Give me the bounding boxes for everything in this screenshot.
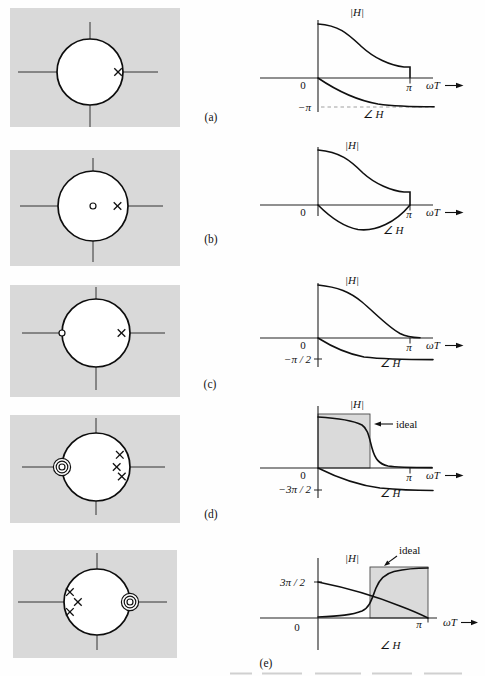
phase-label: ∠ H xyxy=(383,224,405,236)
pi-label: π xyxy=(406,208,412,220)
phase-label: ∠ H xyxy=(380,487,402,499)
magnitude-label: |H| xyxy=(345,275,359,286)
panel-label: (e) xyxy=(260,657,273,670)
cropped-caption-marks xyxy=(230,673,462,675)
magnitude-label: |H| xyxy=(350,6,364,18)
omega-t-label: ωT xyxy=(443,616,458,628)
phase-level-label: 3π / 2 xyxy=(279,576,306,588)
origin-label: 0 xyxy=(300,469,306,481)
pi-label: π xyxy=(406,471,412,483)
ideal-label: ideal xyxy=(399,544,420,556)
panel-e-row: (e) ideal |H| 3π / 2 0 π ωT ∠ H xyxy=(0,540,485,676)
phase-level-label: −3π / 2 xyxy=(279,483,312,495)
panel-label: (b) xyxy=(204,233,218,246)
magnitude-label: |H| xyxy=(350,400,364,410)
ideal-response-region xyxy=(318,414,370,468)
phase-curve xyxy=(318,78,434,107)
panel-b-row: (b) |H| 0 π ωT ∠ H xyxy=(0,140,485,275)
phase-level-label: −π xyxy=(298,101,311,113)
origin-label: 0 xyxy=(300,79,306,91)
phase-level-label: −π / 2 xyxy=(284,353,311,365)
panel-a-row: (a) |H| 0 π ωT −π ∠ H xyxy=(0,0,485,140)
magnitude-curve xyxy=(318,285,420,338)
textbook-figure-page: (a) |H| 0 π ωT −π ∠ H (b) |H| 0 π ωT ∠ H xyxy=(0,0,485,676)
panel-d-row: (d) ideal |H| 0 π ωT −3π / 2 ∠ H xyxy=(0,400,485,540)
omega-t-label: ωT xyxy=(426,79,441,91)
zero-marker xyxy=(59,330,65,336)
pi-label: π xyxy=(406,341,412,353)
magnitude-curve xyxy=(318,24,410,78)
panel-label: (d) xyxy=(204,508,218,521)
origin-label: 0 xyxy=(300,206,306,218)
omega-t-label: ωT xyxy=(426,469,441,481)
zero-marker xyxy=(90,203,96,209)
origin-label: 0 xyxy=(294,621,300,633)
phase-label: ∠ H xyxy=(363,108,385,120)
ideal-label: ideal xyxy=(396,418,417,430)
omega-t-arrowhead-icon xyxy=(456,343,464,348)
unit-circle xyxy=(62,433,130,501)
omega-t-arrowhead-icon xyxy=(471,620,478,625)
origin-label: 0 xyxy=(300,339,306,351)
panel-c-row: (c) |H| 0 π ωT −π / 2 ∠ H xyxy=(0,275,485,400)
phase-curve xyxy=(318,338,433,360)
omega-t-arrowhead-icon xyxy=(456,83,464,88)
omega-t-label: ωT xyxy=(426,206,441,218)
magnitude-label: |H| xyxy=(345,140,359,151)
phase-label: ∠ H xyxy=(380,357,402,369)
omega-t-arrowhead-icon xyxy=(456,210,464,215)
unit-circle xyxy=(57,39,123,105)
magnitude-label: |H| xyxy=(345,552,359,564)
omega-t-arrowhead-icon xyxy=(456,473,464,478)
phase-label: ∠ H xyxy=(380,639,402,651)
pi-label: π xyxy=(406,81,412,93)
omega-t-label: ωT xyxy=(426,339,441,351)
ideal-response-region xyxy=(370,567,428,618)
panel-label: (a) xyxy=(205,111,218,124)
pi-label: π xyxy=(416,618,422,630)
phase-curve xyxy=(318,468,433,491)
unit-circle xyxy=(64,569,130,635)
ideal-arrowhead-icon xyxy=(374,422,381,427)
unit-circle xyxy=(62,299,130,367)
panel-label: (c) xyxy=(204,378,217,391)
ideal-arrow xyxy=(388,556,397,563)
magnitude-curve xyxy=(318,150,410,205)
